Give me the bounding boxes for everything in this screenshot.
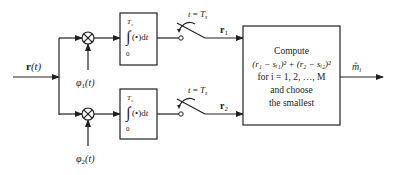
receiver-block-diagram: r(t) φ1(t) Ts ∫ (•)dt 0 (0, 0, 397, 175)
integrator-2: Ts ∫ (•)dt 0 (120, 89, 157, 139)
integrator-2-integrand: (•)dt (132, 108, 149, 118)
basis-2-label: φ2(t) (76, 153, 95, 166)
r1-label: r1 (220, 24, 228, 37)
multiplier-2-icon (82, 108, 94, 120)
decision-line-4: and choose (270, 85, 312, 95)
decision-line-3: for i = 1, 2, …, M (258, 72, 326, 82)
decision-formula: (r₁ − sᵢ₁)² + (r₂ − sᵢ₂)² (252, 59, 331, 69)
basis-1-label: φ1(t) (76, 77, 95, 90)
output-label: m̂i (352, 61, 361, 74)
sampler-switch-1: t = Ts (177, 9, 208, 40)
input-signal: r(t) (13, 60, 59, 77)
branch-2: φ2(t) Ts ∫ (•)dt 0 t = Ts (59, 85, 243, 166)
decision-box: Compute (r₁ − sᵢ₁)² + (r₂ − sᵢ₂)² for i … (243, 26, 340, 125)
r2-label: r2 (220, 100, 228, 113)
integrator-1: Ts ∫ (•)dt 0 (120, 13, 157, 65)
sampler-1-label: t = Ts (188, 9, 208, 20)
sampler-switch-2: t = Ts (177, 85, 208, 116)
decision-line-5: the smallest (269, 98, 314, 108)
decision-line-1: Compute (274, 46, 309, 56)
integrator-1-lower-limit: 0 (126, 50, 130, 58)
branch-1: φ1(t) Ts ∫ (•)dt 0 t = Ts (59, 9, 243, 90)
multiplier-1-icon (82, 32, 94, 44)
integrator-2-lower-limit: 0 (126, 125, 130, 133)
sampler-2-label: t = Ts (188, 85, 208, 96)
input-label: r(t) (26, 60, 42, 73)
integrator-1-integrand: (•)dt (132, 32, 149, 42)
